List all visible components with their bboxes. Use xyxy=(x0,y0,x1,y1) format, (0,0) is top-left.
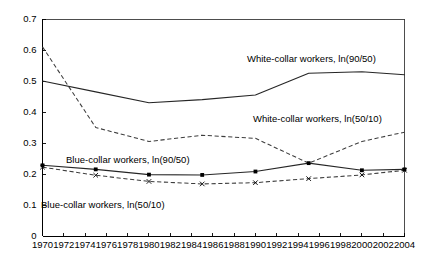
y-tick-label: 0.7 xyxy=(23,13,36,24)
x-tick-label: 1982 xyxy=(160,239,181,250)
x-tick-label: 1972 xyxy=(53,239,74,250)
x-tick-label: 1986 xyxy=(202,239,223,250)
line-chart: 00.10.20.30.40.50.60.7 19701972197419761… xyxy=(0,0,427,270)
series-line-1 xyxy=(43,47,405,163)
x-tick-label: 2004 xyxy=(394,239,415,250)
x-tick-label: 1992 xyxy=(266,239,287,250)
x-tick-label: 1974 xyxy=(75,239,96,250)
x-tick-label: 1970 xyxy=(32,239,53,250)
x-tick-label: 1994 xyxy=(287,239,308,250)
series-marker xyxy=(147,173,151,177)
x-axis-ticks: 1970197219741976197819801982198419861988… xyxy=(32,233,415,251)
series-marker xyxy=(200,173,204,177)
series-marker xyxy=(360,168,364,172)
series-marker xyxy=(307,161,311,165)
y-tick-label: 0.6 xyxy=(23,44,36,55)
x-tick-label: 1980 xyxy=(138,239,159,250)
x-tick-label: 1988 xyxy=(224,239,245,250)
y-tick-label: 0.2 xyxy=(23,168,36,179)
x-tick-label: 1996 xyxy=(309,239,330,250)
x-tick-label: 1978 xyxy=(117,239,138,250)
y-tick-label: 0.1 xyxy=(23,199,36,210)
series-line-0 xyxy=(43,72,405,103)
x-tick-label: 1990 xyxy=(245,239,266,250)
y-tick-label: 0.3 xyxy=(23,137,36,148)
x-tick-label: 1984 xyxy=(181,239,202,250)
x-tick-label: 1976 xyxy=(96,239,117,250)
series-annotation-1: White-collar workers, ln(50/10) xyxy=(253,113,382,124)
series-annotations: White-collar workers, ln(90/50)White-col… xyxy=(41,53,382,210)
series-marker xyxy=(254,170,258,174)
x-tick-label: 2002 xyxy=(373,239,394,250)
series-marker xyxy=(94,167,98,171)
series-annotation-3: Blue-collar workers, ln(50/10) xyxy=(41,199,165,210)
y-tick-label: 0.4 xyxy=(23,106,36,117)
chart-container: 00.10.20.30.40.50.60.7 19701972197419761… xyxy=(0,0,427,270)
y-tick-label: 0.5 xyxy=(23,75,36,86)
x-tick-label: 1998 xyxy=(330,239,351,250)
series-annotation-0: White-collar workers, ln(90/50) xyxy=(247,53,376,64)
x-tick-label: 2000 xyxy=(351,239,372,250)
series-annotation-2: Blue-collar workers, ln(90/50) xyxy=(66,154,190,165)
